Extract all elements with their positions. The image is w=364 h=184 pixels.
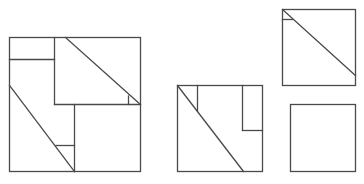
dissection-diagram — [0, 0, 364, 184]
bottom-right-square-group — [291, 105, 356, 172]
bottom-right-square-outline — [291, 105, 356, 172]
top-right-square-outline — [283, 10, 356, 86]
large-square-group — [10, 38, 141, 172]
middle-square-group — [178, 86, 263, 172]
top-right-diagonal-cut — [283, 10, 356, 76]
top-right-square-group — [283, 10, 356, 86]
lower-diagonal-cut — [10, 86, 75, 172]
middle-diagonal-cut — [178, 86, 244, 172]
middle-square-outline — [178, 86, 263, 172]
upper-diagonal-cut — [66, 38, 141, 105]
